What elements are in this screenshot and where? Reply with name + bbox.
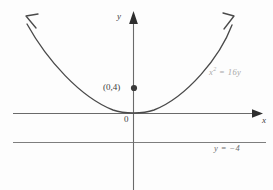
equation-label: x2 = 16y bbox=[209, 66, 241, 76]
figure-canvas bbox=[0, 0, 273, 190]
y-axis-arrowhead-icon bbox=[129, 11, 138, 24]
equation-rest: = 16y bbox=[217, 67, 242, 77]
parabola-curve bbox=[26, 13, 234, 113]
y-axis bbox=[129, 11, 138, 190]
parabola-path bbox=[27, 24, 232, 113]
parabola-figure: y x 0 (0,4) x2 = 16y y = −4 bbox=[0, 0, 273, 190]
directrix-label: y = −4 bbox=[214, 144, 240, 153]
origin-label: 0 bbox=[124, 115, 129, 124]
x-axis-label: x bbox=[262, 116, 266, 125]
parabola-right-arrowhead-icon bbox=[223, 13, 234, 29]
focus-point-label: (0,4) bbox=[103, 83, 120, 92]
y-axis-label: y bbox=[117, 12, 121, 21]
focus-point-dot bbox=[131, 85, 137, 91]
